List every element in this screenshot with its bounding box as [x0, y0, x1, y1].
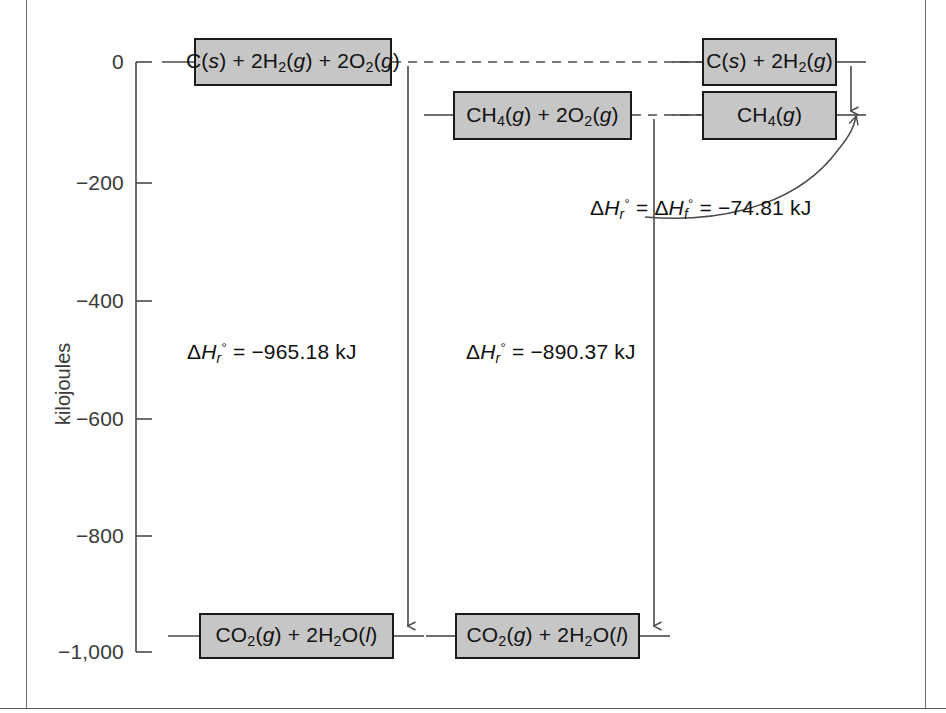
species-formula-reactants-methane: CH4(g) + 2O2(g)	[462, 104, 623, 128]
species-box-elements-only: C(s) + 2H2(g)	[702, 38, 837, 86]
y-axis-title: kilojoules	[52, 343, 75, 425]
y-tick-label-0: 0	[78, 50, 124, 74]
species-formula-elements-only: C(s) + 2H2(g)	[702, 50, 837, 74]
annotation-delta-h-total: ΔHr° = −965.18 kJ	[187, 340, 357, 366]
y-tick-label-800: −800	[48, 524, 124, 548]
species-box-products-left: CO2(g) + 2H2O(l)	[199, 613, 394, 659]
species-box-methane-only: CH4(g)	[702, 91, 837, 140]
y-tick-label-200: −200	[48, 171, 124, 195]
annotation-delta-h-combustion: ΔHr° = −890.37 kJ	[466, 340, 636, 366]
annotation-delta-h-formation: ΔHr° = ΔHf° = −74.81 kJ	[590, 196, 811, 222]
species-box-reactants-elements: C(s) + 2H2(g) + 2O2(g)	[194, 38, 392, 86]
annotation-formation-symbol: ΔHr° = ΔHf° = −74.81 kJ	[590, 196, 811, 219]
enthalpy-diagram-figure: 0 −200 −400 −600 −800 −1,000 kilojoules …	[0, 0, 946, 713]
species-formula-products-left: CO2(g) + 2H2O(l)	[211, 624, 381, 648]
species-formula-products-middle: CO2(g) + 2H2O(l)	[462, 624, 632, 648]
annotation-combustion-symbol: ΔHr° = −890.37 kJ	[466, 340, 636, 363]
y-tick-label-400: −400	[48, 289, 124, 313]
species-formula-methane-only: CH4(g)	[733, 104, 806, 128]
y-tick-label-1000: −1,000	[28, 640, 124, 664]
species-box-products-middle: CO2(g) + 2H2O(l)	[455, 613, 640, 659]
annotation-total-symbol: ΔHr° = −965.18 kJ	[187, 340, 357, 363]
species-box-reactants-methane: CH4(g) + 2O2(g)	[453, 91, 632, 140]
species-formula-reactants-elements: C(s) + 2H2(g) + 2O2(g)	[182, 50, 404, 74]
